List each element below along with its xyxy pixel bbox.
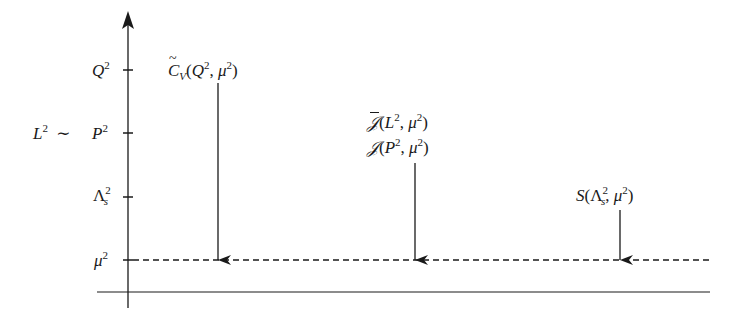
tick-label-P: P2	[92, 123, 108, 142]
vertical-axis	[122, 11, 134, 308]
diagram-canvas	[0, 0, 740, 323]
function-label-hard: CV(Q2, μ2)	[168, 60, 238, 82]
tick-label-mu: μ2	[94, 250, 108, 269]
tick-label-Q: Q2	[92, 60, 110, 79]
function-label-jet-bar: 𝒥(L2, μ2)	[367, 112, 428, 131]
prefix-label-L: L2 ∼	[33, 123, 70, 142]
tick-label-Lambda: Λ2s	[93, 185, 108, 207]
function-label-jet: 𝒥(P2, μ2)	[367, 137, 429, 156]
function-label-soft: S(Λ2s, μ2)	[576, 185, 634, 207]
